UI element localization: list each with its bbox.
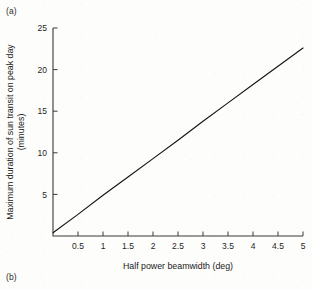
x-tick-label: 4.5 bbox=[272, 241, 284, 251]
x-tick-label: 1.5 bbox=[122, 241, 134, 251]
y-axis-ticks bbox=[53, 28, 58, 194]
x-tick-label: 2 bbox=[151, 241, 156, 251]
x-tick-label: 5 bbox=[301, 241, 306, 251]
x-axis-ticks bbox=[78, 232, 303, 237]
x-tick-label: 4 bbox=[251, 241, 256, 251]
x-axis-title: Half power beamwidth (deg) bbox=[123, 261, 233, 271]
x-tick-label: 0.5 bbox=[72, 241, 84, 251]
y-tick-label: 5 bbox=[42, 190, 47, 200]
y-tick-label: 10 bbox=[38, 148, 48, 158]
figure-panel-a: 510152025 0.511.522.533.544.55 Half powe… bbox=[0, 0, 312, 290]
y-axis-tick-labels: 510152025 bbox=[38, 23, 48, 199]
y-axis-title-line2: (minutes) bbox=[16, 114, 26, 151]
y-axis-title: Maximum duration of sun transit on peak … bbox=[5, 44, 15, 220]
data-series-line bbox=[53, 48, 303, 233]
x-axis-tick-labels: 0.511.522.533.544.55 bbox=[72, 241, 306, 251]
y-tick-label: 25 bbox=[38, 23, 48, 33]
y-tick-label: 20 bbox=[38, 65, 48, 75]
y-tick-label: 15 bbox=[38, 106, 48, 116]
x-tick-label: 1 bbox=[101, 241, 106, 251]
x-tick-label: 3 bbox=[201, 241, 206, 251]
line-chart: 510152025 0.511.522.533.544.55 Half powe… bbox=[0, 0, 312, 290]
x-tick-label: 3.5 bbox=[222, 241, 234, 251]
x-tick-label: 2.5 bbox=[172, 241, 184, 251]
